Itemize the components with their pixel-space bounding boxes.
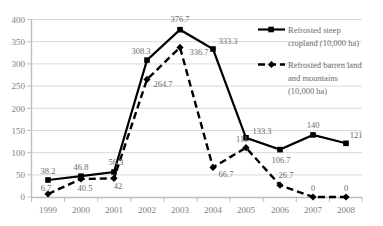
x-tick-label-2004: 2004 [204, 205, 223, 215]
marker-diamond-2008 [342, 193, 349, 200]
x-axis-tick-labels: 1999 2000 2001 2002 2003 2004 2005 2006 … [39, 205, 356, 215]
data-label-cropland-2006: 106.7 [271, 155, 290, 165]
data-label-cropland-2003: 376.7 [170, 14, 189, 24]
data-label-cropland-2000: 46.8 [74, 162, 89, 172]
x-tick-label-2006: 2006 [271, 205, 290, 215]
y-tick-label-200: 200 [12, 104, 26, 114]
x-tick-label-2000: 2000 [72, 205, 91, 215]
y-tick-label-50: 50 [16, 170, 26, 180]
marker-square-2006 [277, 147, 283, 153]
chart-legend: Refrosted steep cropland (10,000 ha) Ref… [258, 25, 362, 96]
data-label-cropland-2004: 333.3 [218, 36, 237, 46]
x-tick-label-1999: 1999 [39, 205, 58, 215]
data-label-barren-2006: 26.7 [279, 170, 294, 180]
data-label-cropland-2007: 140 [307, 120, 320, 130]
data-label-barren-2008: 0 [344, 183, 348, 193]
marker-square-2008 [343, 141, 349, 147]
x-tick-label-2001: 2001 [105, 205, 123, 215]
data-label-barren-2001: 42 [114, 181, 123, 191]
data-label-barren-1999: 6.7 [41, 183, 52, 193]
legend-marker-square-icon [268, 27, 274, 33]
marker-square-1999 [45, 177, 51, 183]
marker-square-2001 [111, 169, 117, 175]
y-tick-label-250: 250 [12, 81, 26, 91]
legend-label-steep-cropland-line1: Refrosted steep [288, 25, 341, 35]
x-tick-label-2005: 2005 [237, 205, 256, 215]
data-label-cropland-2008: 121 [350, 130, 363, 140]
marker-diamond-2007 [309, 193, 316, 200]
y-axis-tick-labels: 400 350 300 250 200 150 100 50 0 [12, 15, 26, 203]
data-label-cropland-2002: 308.3 [131, 46, 150, 56]
data-label-cropland-2001: 56.3 [109, 157, 124, 167]
x-tick-label-2002: 2002 [138, 205, 156, 215]
data-label-barren-2000: 40.5 [78, 183, 93, 193]
data-label-cropland-2005: 133.3 [252, 126, 271, 136]
legend-label-barren-land-line2: and mountains [288, 73, 338, 83]
data-label-cropland-1999: 38.2 [41, 166, 56, 176]
y-axis-ticks [27, 20, 31, 198]
x-tick-label-2003: 2003 [171, 205, 190, 215]
data-label-barren-2007: 0 [311, 183, 315, 193]
data-label-barren-2004: 66.7 [219, 169, 234, 179]
marker-square-2004 [210, 46, 216, 52]
y-tick-label-300: 300 [12, 59, 26, 69]
data-label-barren-2003: 336.7 [189, 47, 208, 57]
marker-square-2002 [144, 57, 150, 63]
x-tick-label-2007: 2007 [304, 205, 323, 215]
line-chart: 400 350 300 250 200 150 100 50 0 1999 [0, 0, 383, 226]
y-tick-label-400: 400 [12, 15, 26, 25]
x-tick-label-2008: 2008 [337, 205, 356, 215]
y-tick-label-350: 350 [12, 37, 26, 47]
y-tick-label-100: 100 [12, 148, 26, 158]
data-label-barren-2005: 111 [236, 134, 248, 144]
legend-label-steep-cropland-line2: cropland (10,000 ha) [288, 38, 359, 48]
data-label-barren-2002: 264.7 [153, 79, 172, 89]
y-tick-label-150: 150 [12, 126, 26, 136]
legend-item-barren-land[interactable]: Refrosted barren land and mountains (10,… [258, 60, 362, 96]
marker-square-2000 [78, 173, 84, 179]
legend-label-barren-land-line1: Refrosted barren land [288, 60, 362, 70]
marker-square-2003 [177, 27, 183, 33]
legend-item-steep-cropland[interactable]: Refrosted steep cropland (10,000 ha) [258, 25, 359, 48]
chart-canvas: 400 350 300 250 200 150 100 50 0 1999 [0, 0, 383, 226]
legend-marker-diamond-icon [268, 61, 275, 68]
marker-square-2007 [310, 132, 316, 138]
y-tick-label-0: 0 [21, 192, 26, 202]
legend-label-barren-land-line3: (10,000 ha) [288, 86, 327, 96]
